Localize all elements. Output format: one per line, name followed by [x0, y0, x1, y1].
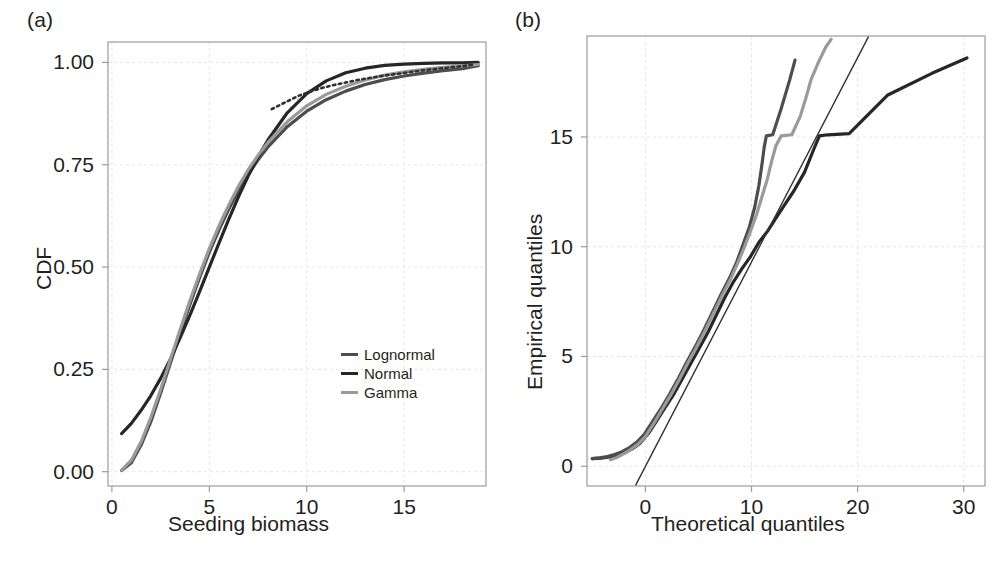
svg-text:10: 10 — [550, 235, 573, 258]
legend-item-normal: Normal — [341, 364, 435, 383]
svg-text:30: 30 — [952, 495, 975, 518]
legend-label-lognormal: Lognormal — [364, 345, 435, 364]
panel-a-yaxis-title: CDF — [32, 247, 56, 290]
panel-b-plot-area: 0102030051015 — [501, 0, 1003, 562]
panel-a-xaxis-title: Seeding biomass — [168, 512, 329, 536]
svg-text:20: 20 — [846, 495, 869, 518]
legend-item-gamma: Gamma — [341, 383, 435, 402]
svg-text:0: 0 — [561, 454, 573, 477]
svg-text:0.50: 0.50 — [53, 255, 94, 278]
legend-label-normal: Normal — [364, 364, 412, 383]
legend-item-lognormal: Lognormal — [341, 345, 435, 364]
svg-text:0: 0 — [106, 495, 118, 518]
svg-text:5: 5 — [561, 344, 573, 367]
panel-a-plot-area: 0510150.000.250.500.751.00 — [0, 0, 501, 562]
svg-text:1.00: 1.00 — [53, 50, 94, 73]
legend-swatch-lognormal — [341, 353, 358, 356]
panel-b-qq: (b) 0102030051015 Theoretical quantiles … — [501, 0, 1003, 562]
panel-b-xaxis-title: Theoretical quantiles — [651, 512, 845, 536]
figure-container: (a) 0510150.000.250.500.751.00 Seeding b… — [0, 0, 1003, 562]
legend-swatch-gamma — [341, 391, 358, 394]
svg-text:0: 0 — [640, 495, 652, 518]
panel-a-cdf: (a) 0510150.000.250.500.751.00 Seeding b… — [0, 0, 501, 562]
svg-text:0.75: 0.75 — [53, 153, 94, 176]
svg-text:15: 15 — [392, 495, 415, 518]
svg-text:15: 15 — [550, 125, 573, 148]
panel-b-yaxis-title: Empirical quantiles — [523, 214, 547, 390]
svg-text:0.25: 0.25 — [53, 357, 94, 380]
legend-swatch-normal — [341, 372, 358, 375]
legend-label-gamma: Gamma — [364, 383, 417, 402]
panel-a-legend: Lognormal Normal Gamma — [341, 345, 435, 402]
svg-text:0.00: 0.00 — [53, 460, 94, 483]
